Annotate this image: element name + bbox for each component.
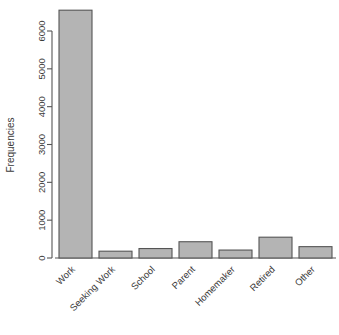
y-tick-label: 3000	[36, 134, 47, 155]
barplot-figure: 0100020003000400050006000 Frequencies Wo…	[0, 0, 339, 335]
y-tick-label: 4000	[36, 96, 47, 117]
barplot-canvas: 0100020003000400050006000 Frequencies Wo…	[0, 0, 339, 335]
y-axis-title: Frequencies	[5, 117, 16, 172]
bar	[219, 250, 252, 258]
bar	[59, 10, 92, 258]
y-tick-label: 0	[36, 255, 47, 260]
bar	[99, 251, 132, 258]
y-tick-label: 1000	[36, 210, 47, 231]
y-tick-label: 5000	[36, 58, 47, 79]
bar	[299, 247, 332, 258]
y-tick-label: 6000	[36, 20, 47, 41]
y-axis-label: Frequencies	[5, 117, 16, 172]
bar	[179, 242, 212, 258]
y-tick-label: 2000	[36, 172, 47, 193]
bar	[139, 249, 172, 258]
bar	[259, 237, 292, 258]
